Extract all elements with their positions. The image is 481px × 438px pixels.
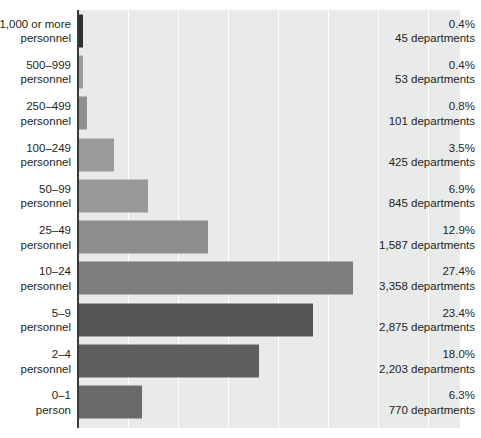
value-label: 18.0% 2,203 departments: [370, 347, 475, 376]
category-label: 50–99 personnel: [0, 181, 71, 210]
bar-row: 5–9 personnel23.4% 2,875 departments: [0, 299, 481, 340]
category-label: 100–249 personnel: [0, 140, 71, 169]
bar-rows: 1,000 or more personnel0.4% 45 departmen…: [0, 10, 481, 428]
bar-row: 50–99 personnel6.9% 845 departments: [0, 175, 481, 216]
category-label: 0–1 person: [0, 388, 71, 417]
category-label: 10–24 personnel: [0, 264, 71, 293]
bar-row: 100–249 personnel3.5% 425 departments: [0, 134, 481, 175]
value-label: 0.4% 53 departments: [370, 57, 475, 86]
value-label: 0.4% 45 departments: [370, 16, 475, 45]
bar: [79, 14, 83, 47]
value-label: 12.9% 1,587 departments: [370, 223, 475, 252]
value-label: 27.4% 3,358 departments: [370, 264, 475, 293]
bar: [79, 386, 142, 419]
category-label: 5–9 personnel: [0, 305, 71, 334]
value-label: 0.8% 101 departments: [370, 99, 475, 128]
value-label: 23.4% 2,875 departments: [370, 305, 475, 334]
category-label: 250–499 personnel: [0, 99, 71, 128]
value-label: 3.5% 425 departments: [370, 140, 475, 169]
bar: [79, 303, 313, 336]
bar-row: 250–499 personnel0.8% 101 departments: [0, 93, 481, 134]
bar-row: 1,000 or more personnel0.4% 45 departmen…: [0, 10, 481, 51]
category-label: 500–999 personnel: [0, 57, 71, 86]
bar: [79, 97, 87, 130]
bar-row: 500–999 personnel0.4% 53 departments: [0, 51, 481, 92]
category-label: 25–49 personnel: [0, 223, 71, 252]
value-label: 6.3% 770 departments: [370, 388, 475, 417]
value-label: 6.9% 845 departments: [370, 181, 475, 210]
bar-row: 2–4 personnel18.0% 2,203 departments: [0, 340, 481, 381]
bar: [79, 221, 208, 254]
bar-chart: 1,000 or more personnel0.4% 45 departmen…: [0, 0, 481, 438]
bar-row: 10–24 personnel27.4% 3,358 departments: [0, 258, 481, 299]
category-label: 1,000 or more personnel: [0, 16, 71, 45]
category-label: 2–4 personnel: [0, 347, 71, 376]
bar: [79, 345, 259, 378]
bar: [79, 55, 83, 88]
bar: [79, 179, 148, 212]
bar-row: 0–1 person6.3% 770 departments: [0, 382, 481, 423]
bar: [79, 138, 114, 171]
bar-row: 25–49 personnel12.9% 1,587 departments: [0, 216, 481, 257]
bar: [79, 262, 353, 295]
